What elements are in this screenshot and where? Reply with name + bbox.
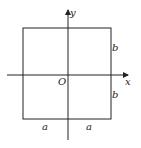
coordinate-diagram: y x O b b a a [0,0,141,148]
label-b-bottom: b [112,89,118,100]
y-axis-label: y [69,7,76,18]
label-a-left: a [42,121,48,132]
label-a-right: a [86,121,92,132]
x-axis-label: x [125,76,131,87]
label-b-top: b [112,42,118,53]
origin-label: O [58,76,66,87]
square [23,28,111,119]
